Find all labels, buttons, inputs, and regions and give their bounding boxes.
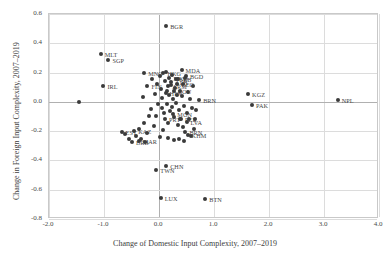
scatter-point xyxy=(182,139,186,143)
point-label: BGR xyxy=(170,22,183,29)
scatter-point xyxy=(161,128,165,132)
scatter-point xyxy=(182,104,186,108)
y-axis-tick-label: 0.2 xyxy=(16,68,42,76)
x-gridline xyxy=(324,14,325,217)
scatter-point xyxy=(167,76,171,80)
scatter-point xyxy=(163,79,167,83)
point-label: BRN xyxy=(203,96,216,103)
scatter-point xyxy=(137,139,141,143)
y-gridline xyxy=(49,73,377,74)
scatter-point xyxy=(152,124,156,128)
x-axis-tick-label: 2.0 xyxy=(264,220,273,228)
x-axis-tick-label: 4.0 xyxy=(374,220,383,228)
scatter-point xyxy=(170,105,174,109)
scatter-point xyxy=(161,71,165,75)
point-label: IRL xyxy=(107,82,117,89)
point-label: FIN xyxy=(151,83,161,90)
point-label: MAR xyxy=(143,138,157,145)
scatter-point xyxy=(171,112,175,116)
scatter-point xyxy=(132,129,136,133)
scatter-point xyxy=(181,125,185,129)
y-axis-tick-label: -0.4 xyxy=(16,155,42,163)
scatter-point xyxy=(164,164,168,168)
x-gridline xyxy=(379,14,380,217)
scatter-point xyxy=(171,97,175,101)
scatter-point xyxy=(163,117,167,121)
y-gridline xyxy=(49,43,377,44)
point-label: SGP xyxy=(112,57,124,64)
point-label: NPL xyxy=(342,97,354,104)
y-gridline xyxy=(49,131,377,132)
x-gridline xyxy=(269,14,270,217)
scatter-point xyxy=(176,123,180,127)
point-label: MON xyxy=(177,111,192,118)
point-label: KGZ xyxy=(252,90,265,97)
point-label: LUX xyxy=(165,194,178,201)
x-axis-tick-label: 3.0 xyxy=(319,220,328,228)
scatter-point xyxy=(160,106,164,110)
scatter-point xyxy=(149,107,153,111)
scatter-point xyxy=(250,103,254,107)
scatter-point xyxy=(164,91,168,95)
x-axis-tick-label: 1.0 xyxy=(209,220,218,228)
scatter-point xyxy=(190,106,194,110)
point-label: PAK xyxy=(256,101,268,108)
y-axis-tick-label: -0.8 xyxy=(16,214,42,222)
scatter-point xyxy=(142,71,146,75)
scatter-point xyxy=(142,121,146,125)
scatter-point xyxy=(162,111,166,115)
scatter-point xyxy=(147,114,151,118)
scatter-point xyxy=(130,140,134,144)
plot-area: BGRMLTSGPMNGIRLFINHKGMDABGDMKDSRBALBGEOA… xyxy=(48,13,378,218)
scatter-point xyxy=(120,130,124,134)
scatter-point xyxy=(77,100,81,104)
point-label: KAZ xyxy=(138,128,151,135)
x-axis-label: Change of Domestic Input Complexity, 200… xyxy=(0,239,390,248)
x-axis-tick-label: 0.0 xyxy=(154,220,163,228)
scatter-point xyxy=(165,102,169,106)
scatter-point xyxy=(164,24,168,28)
scatter-point xyxy=(197,98,201,102)
scatter-point xyxy=(166,136,170,140)
scatter-point xyxy=(203,197,207,201)
y-axis-tick-label: 0.0 xyxy=(16,97,42,105)
y-axis-tick-label: 0.4 xyxy=(16,38,42,46)
point-label: HRV xyxy=(170,90,183,97)
scatter-point xyxy=(99,52,103,56)
y-axis-label: Change in Foreign Input Complexity, 2007… xyxy=(12,42,21,200)
y-gridline xyxy=(49,190,377,191)
scatter-point xyxy=(158,135,162,139)
y-gridline xyxy=(49,160,377,161)
scatter-point xyxy=(150,77,154,81)
y-axis-tick-label: -0.6 xyxy=(16,185,42,193)
scatter-point xyxy=(154,168,158,172)
scatter-chart-figure: BGRMLTSGPMNGIRLFINHKGMDABGDMKDSRBALBGEOA… xyxy=(0,0,390,263)
scatter-point xyxy=(166,84,170,88)
scatter-point xyxy=(159,196,163,200)
x-axis-tick-label: -2.0 xyxy=(42,220,53,228)
scatter-point xyxy=(154,114,158,118)
scatter-point xyxy=(145,84,149,88)
point-label: BGD xyxy=(190,73,203,80)
scatter-point xyxy=(336,98,340,102)
x-gridline xyxy=(49,14,50,217)
scatter-point xyxy=(194,108,198,112)
scatter-point xyxy=(160,96,164,100)
x-axis-tick-label: -1.0 xyxy=(97,220,108,228)
scatter-point xyxy=(180,68,184,72)
scatter-point xyxy=(188,97,192,101)
scatter-point xyxy=(156,102,160,106)
scatter-point xyxy=(106,58,110,62)
point-label: CHN xyxy=(170,162,183,169)
y-axis-tick-label: 0.6 xyxy=(16,9,42,17)
x-gridline xyxy=(104,14,105,217)
x-gridline xyxy=(159,14,160,217)
x-gridline xyxy=(214,14,215,217)
scatter-point xyxy=(101,84,105,88)
scatter-point xyxy=(186,133,190,137)
scatter-point xyxy=(177,137,181,141)
point-label: BTN xyxy=(209,195,222,202)
scatter-point xyxy=(141,95,145,99)
scatter-point xyxy=(153,92,157,96)
scatter-point xyxy=(246,92,250,96)
